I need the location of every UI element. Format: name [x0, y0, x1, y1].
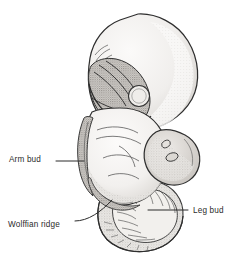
optic-vesicle — [129, 86, 150, 107]
label-leg-bud: Leg bud — [193, 206, 224, 216]
label-wolffian-ridge: Wolffian ridge — [8, 220, 60, 230]
label-arm-bud: Arm bud — [9, 155, 41, 165]
